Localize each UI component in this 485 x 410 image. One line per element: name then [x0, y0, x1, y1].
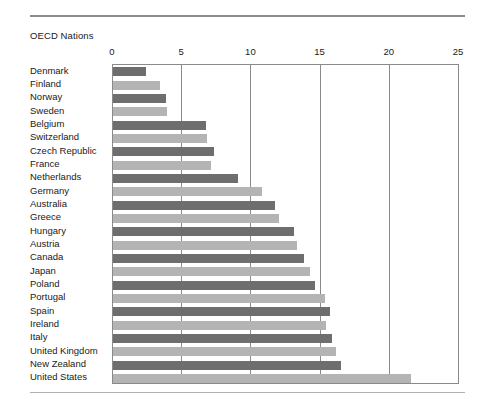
- bar: [113, 361, 341, 370]
- chart-figure: OECD Nations 0510152025 DenmarkFinlandNo…: [0, 0, 485, 410]
- category-label: Czech Republic: [0, 146, 105, 156]
- bar: [113, 281, 315, 290]
- bar: [113, 67, 146, 76]
- bar: [113, 241, 297, 250]
- x-tick-label-5: 5: [179, 46, 184, 57]
- chart-title: OECD Nations: [30, 30, 94, 41]
- bar: [113, 307, 330, 316]
- category-label: Spain: [0, 306, 105, 316]
- bar: [113, 267, 310, 276]
- bar-series: [113, 65, 459, 383]
- bar: [113, 294, 325, 303]
- category-label: Netherlands: [0, 172, 105, 182]
- category-label: Switzerland: [0, 132, 105, 142]
- category-label: Denmark: [0, 66, 105, 76]
- bar: [113, 334, 332, 343]
- bar: [113, 174, 238, 183]
- x-tick-label-25: 25: [453, 46, 464, 57]
- bar: [113, 187, 262, 196]
- bottom-divider-rule: [30, 392, 465, 393]
- bar: [113, 214, 279, 223]
- bar: [113, 254, 304, 263]
- x-tick-label-20: 20: [384, 46, 395, 57]
- bar: [113, 134, 207, 143]
- category-label: Ireland: [0, 319, 105, 329]
- category-label: Norway: [0, 92, 105, 102]
- category-label: Japan: [0, 266, 105, 276]
- category-label: United States: [0, 372, 105, 382]
- category-label: New Zealand: [0, 359, 105, 369]
- category-label: Finland: [0, 79, 105, 89]
- bar: [113, 201, 275, 210]
- category-label: France: [0, 159, 105, 169]
- bar: [113, 161, 211, 170]
- category-axis-labels: DenmarkFinlandNorwaySwedenBelgiumSwitzer…: [0, 64, 108, 384]
- bar: [113, 347, 336, 356]
- category-label: Sweden: [0, 106, 105, 116]
- category-label: Italy: [0, 332, 105, 342]
- bar: [113, 227, 294, 236]
- category-label: Germany: [0, 186, 105, 196]
- bar: [113, 147, 214, 156]
- top-divider-rule: [30, 15, 465, 17]
- category-label: Poland: [0, 279, 105, 289]
- x-tick-label-15: 15: [314, 46, 325, 57]
- category-label: United Kingdom: [0, 346, 105, 356]
- bar: [113, 321, 326, 330]
- category-label: Portugal: [0, 292, 105, 302]
- category-label: Belgium: [0, 119, 105, 129]
- x-tick-label-10: 10: [245, 46, 256, 57]
- category-label: Canada: [0, 252, 105, 262]
- bar: [113, 107, 167, 116]
- bar: [113, 94, 166, 103]
- category-label: Greece: [0, 212, 105, 222]
- x-axis-tick-labels: 0510152025: [0, 46, 485, 60]
- bar: [113, 374, 411, 383]
- category-label: Austria: [0, 239, 105, 249]
- bar: [113, 81, 160, 90]
- x-tick-label-0: 0: [109, 46, 114, 57]
- category-label: Australia: [0, 199, 105, 209]
- bar: [113, 121, 206, 130]
- category-label: Hungary: [0, 226, 105, 236]
